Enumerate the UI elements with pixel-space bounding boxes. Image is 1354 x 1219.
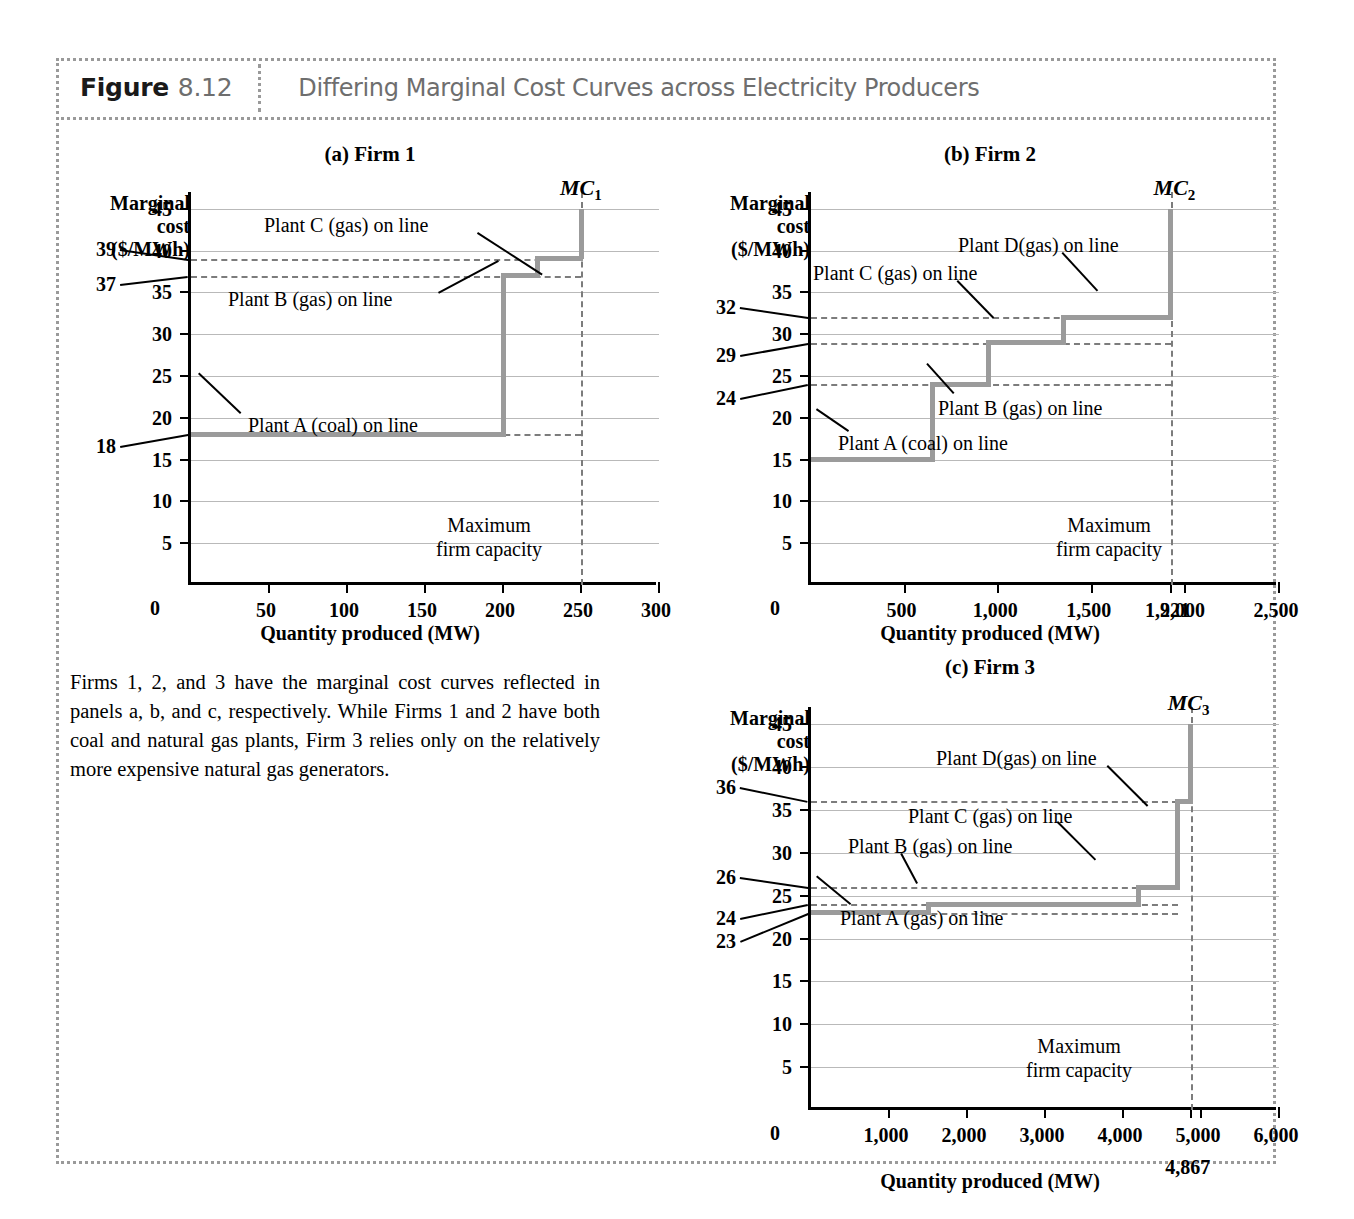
panel-b-x-axis-title: Quantity produced (MW): [690, 622, 1290, 645]
mc-curve-capacity-vertical: [1168, 209, 1173, 318]
max-capacity-annotation: Maximumfirm capacity: [1056, 514, 1162, 561]
x-axis-tick: [1122, 1107, 1124, 1118]
mc-curve-label-text: MC: [1154, 175, 1188, 200]
y-axis-tick: [800, 417, 811, 419]
figure-title: Differing Marginal Cost Curves across El…: [298, 74, 979, 102]
mc-curve-vertical-segment: [1175, 799, 1180, 890]
y-axis-tick: [800, 766, 811, 768]
y-axis-tick: [800, 333, 811, 335]
y-axis-tick-label: 25: [746, 364, 792, 387]
y-axis-tick-label: 30: [746, 841, 792, 864]
y-axis-extra-label: 23: [690, 929, 736, 952]
figure-label: Figure: [80, 73, 169, 102]
mc-curve-vertical-segment: [1136, 885, 1141, 907]
reference-dashed-line: [811, 801, 1178, 803]
x-axis-tick-label: 2,000: [1160, 599, 1205, 622]
gridline-y: [811, 981, 1279, 982]
panel-firm-2: (b) Firm 2 Marginal cost ($/MWh) Quantit…: [690, 142, 1290, 642]
gridline-y: [191, 376, 659, 377]
plant-annotation: Plant B (gas) on line: [848, 835, 1012, 858]
x-axis-tick-label: 5,000: [1176, 1124, 1221, 1147]
mc-curve-capacity-vertical: [1188, 724, 1193, 801]
y-axis-extra-label: 24: [690, 387, 736, 410]
plant-annotation: Plant A (gas) on line: [840, 907, 1003, 930]
y-axis-tick-label: 45: [126, 197, 172, 220]
x-axis-tick-label: 2,000: [942, 1124, 987, 1147]
gridline-y: [191, 334, 659, 335]
gridline-y: [191, 251, 659, 252]
max-capacity-label-line1: Maximum: [1056, 514, 1162, 538]
gridline-y: [811, 896, 1279, 897]
plant-annotation: Plant C (gas) on line: [908, 805, 1072, 828]
x-axis-tick: [1091, 582, 1093, 593]
y-axis-tick: [180, 291, 191, 293]
y-axis-tick: [180, 208, 191, 210]
y-axis-tick: [800, 938, 811, 940]
x-axis-tick-label: 100: [329, 599, 359, 622]
gridline-y: [811, 724, 1279, 725]
gridline-y: [811, 939, 1279, 940]
plant-annotation: Plant D(gas) on line: [958, 234, 1119, 257]
plant-annotation: Plant C (gas) on line: [813, 262, 977, 285]
y-axis-tick-label: 25: [126, 364, 172, 387]
mc-curve-capacity-vertical: [579, 209, 584, 259]
y-axis-extra-label: 32: [690, 296, 736, 319]
plant-annotation: Plant D(gas) on line: [936, 747, 1097, 770]
x-axis-tick-label: 300: [641, 599, 671, 622]
y-label-leader-line: [740, 307, 808, 319]
x-axis-tick: [1278, 582, 1280, 593]
y-axis-tick: [800, 852, 811, 854]
y-axis-tick: [800, 1023, 811, 1025]
gridline-y: [811, 1024, 1279, 1025]
x-axis-tick-label: 4,000: [1098, 1124, 1143, 1147]
figure-title-bar: Figure 8.12 Differing Marginal Cost Curv…: [56, 58, 1276, 120]
x-axis-tick: [888, 1107, 890, 1118]
y-axis-extra-label: 18: [70, 435, 116, 458]
plant-annotation: Plant A (coal) on line: [248, 414, 418, 437]
y-axis-tick-label: 45: [746, 713, 792, 736]
y-axis-tick-label: 35: [746, 281, 792, 304]
panel-firm-3: (c) Firm 3 Marginal cost ($/MWh) Quantit…: [690, 655, 1290, 1185]
mc-curve-vertical-segment: [1061, 315, 1066, 345]
y-axis-tick-label: 20: [126, 406, 172, 429]
x-axis-tick: [346, 582, 348, 593]
y-axis-tick: [800, 208, 811, 210]
gridline-y: [811, 292, 1279, 293]
x-axis-tick-label: 1,500: [1066, 599, 1111, 622]
mc-curve-horizontal-segment: [928, 902, 1141, 907]
plant-annotation: Plant C (gas) on line: [264, 214, 428, 237]
y-axis-tick: [800, 542, 811, 544]
panel-a-plot-area: [188, 192, 656, 585]
y-axis-tick: [180, 333, 191, 335]
x-axis-tick-label: 50: [256, 599, 276, 622]
plant-annotation: Plant B (gas) on line: [228, 288, 392, 311]
y-axis-tick-label: 30: [746, 323, 792, 346]
y-axis-tick-label: 45: [746, 197, 792, 220]
x-axis-tick: [424, 582, 426, 593]
max-capacity-label-line2: firm capacity: [1026, 1059, 1132, 1083]
y-axis-tick-label: 20: [746, 406, 792, 429]
mc-curve-label-subscript: 3: [1202, 703, 1210, 719]
y-axis-tick: [800, 809, 811, 811]
y-axis-tick: [800, 459, 811, 461]
y-axis-tick: [800, 375, 811, 377]
gridline-y: [811, 543, 1279, 544]
mc-curve-vertical-segment: [535, 256, 540, 278]
y-axis-tick-label: 15: [746, 448, 792, 471]
y-axis-extra-label: 26: [690, 866, 736, 889]
plant-annotation: Plant A (coal) on line: [838, 432, 1008, 455]
x-axis-tick: [1044, 1107, 1046, 1118]
gridline-y: [191, 209, 659, 210]
x-axis-tick: [966, 1107, 968, 1118]
y-axis-tick: [180, 459, 191, 461]
y-axis-tick: [800, 895, 811, 897]
mc-curve-label-text: MC: [560, 175, 594, 200]
y-axis-tick: [180, 542, 191, 544]
y-axis-tick-label: 10: [126, 490, 172, 513]
mc-curve-horizontal-segment: [1139, 885, 1181, 890]
y-axis-tick-label: 10: [746, 490, 792, 513]
mc-curve-vertical-segment: [986, 340, 991, 387]
reference-dashed-line: [811, 887, 1178, 889]
panel-a-x-axis-title: Quantity produced (MW): [70, 622, 670, 645]
y-axis-tick-label: 25: [746, 884, 792, 907]
